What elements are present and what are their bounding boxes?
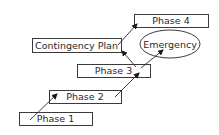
- node-phase3: Phase 3: [78, 65, 151, 78]
- node-emergency-label: Emergency: [143, 39, 197, 50]
- process-flow-diagram: Phase 1Phase 2Phase 3Contingency PlanPha…: [0, 0, 219, 135]
- arrow-contingency-to-phase4: [118, 24, 137, 45]
- node-phase4: Phase 4: [135, 15, 209, 28]
- diagram-nodes: Phase 1Phase 2Phase 3Contingency PlanPha…: [20, 15, 209, 126]
- node-phase3-label: Phase 3: [95, 65, 132, 76]
- node-phase2: Phase 2: [50, 91, 122, 104]
- node-contingency-label: Contingency Plan: [35, 40, 118, 51]
- node-emergency: Emergency: [140, 30, 200, 58]
- node-contingency: Contingency Plan: [33, 39, 122, 53]
- node-phase2-label: Phase 2: [66, 91, 103, 102]
- node-phase1-label: Phase 1: [37, 113, 74, 124]
- node-phase4-label: Phase 4: [152, 15, 189, 26]
